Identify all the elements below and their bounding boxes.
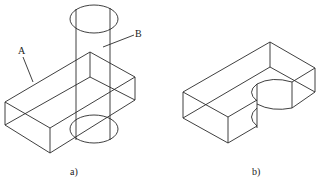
figure-canvas: A B a) b) [0,0,316,184]
leader-line-a [23,57,33,82]
label-a: A [18,46,25,56]
cylinder-b [70,5,118,143]
caption-a: a) [70,167,78,177]
figure-drawing [0,0,316,184]
leader-line-b [103,35,134,47]
label-b: B [135,29,142,39]
caption-b: b) [252,167,260,177]
block-a [5,52,135,153]
notched-block [183,42,315,143]
